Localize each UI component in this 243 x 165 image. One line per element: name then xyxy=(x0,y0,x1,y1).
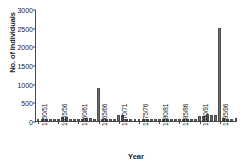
x-tick-mark xyxy=(139,121,140,124)
x-tick-label: 1960/61 xyxy=(81,104,88,126)
x-tick-label: 1985/86 xyxy=(182,104,189,126)
bar xyxy=(73,119,76,121)
x-tick-mark xyxy=(200,121,201,124)
bar xyxy=(109,119,112,121)
bar xyxy=(235,118,238,121)
bar xyxy=(218,28,221,121)
bar xyxy=(129,119,132,121)
x-tick-mark xyxy=(99,121,100,124)
x-tick-label: 1975/76 xyxy=(142,104,149,126)
bar xyxy=(150,119,153,121)
bar xyxy=(230,119,233,121)
y-tick-mark xyxy=(33,28,36,29)
y-tick-mark xyxy=(33,84,36,85)
x-tick-mark xyxy=(78,121,79,124)
bar xyxy=(194,119,197,121)
x-tick-label: 1980/81 xyxy=(162,104,169,126)
x-tick-mark xyxy=(58,121,59,124)
bar xyxy=(97,88,100,121)
bar xyxy=(49,119,52,121)
x-axis-label: Year xyxy=(35,152,237,161)
x-tick-label: 1970/71 xyxy=(121,104,128,126)
bar xyxy=(154,119,157,121)
x-tick-mark xyxy=(179,121,180,124)
x-tick-label: 1965/66 xyxy=(101,104,108,126)
x-tick-label: 1950/51 xyxy=(41,104,48,126)
y-tick-mark xyxy=(33,47,36,48)
y-tick-mark xyxy=(33,66,36,67)
plot-area: 050010001500200025003000 1950/511955/561… xyxy=(35,10,237,122)
x-tick-mark xyxy=(220,121,221,124)
x-tick-mark xyxy=(159,121,160,124)
x-tick-label: 1990/91 xyxy=(202,104,209,126)
bar-chart: No. of Individuals 050010001500200025003… xyxy=(0,0,243,165)
y-tick-mark xyxy=(33,103,36,104)
y-axis-label: No. of Individuals xyxy=(8,5,17,81)
bar xyxy=(174,119,177,121)
bar xyxy=(93,119,96,121)
bar xyxy=(210,115,213,121)
bar xyxy=(190,119,193,121)
y-tick-mark xyxy=(33,10,36,11)
bar xyxy=(170,119,173,121)
bar xyxy=(134,119,137,121)
bar xyxy=(113,119,116,121)
bar xyxy=(214,115,217,121)
bar xyxy=(69,119,72,121)
bar xyxy=(53,119,56,121)
x-tick-mark xyxy=(38,121,39,124)
bar xyxy=(89,118,92,121)
x-tick-mark xyxy=(119,121,120,124)
x-tick-label: 1955/56 xyxy=(61,104,68,126)
x-tick-label: 1995/96 xyxy=(222,104,229,126)
y-tick-mark xyxy=(33,122,36,123)
